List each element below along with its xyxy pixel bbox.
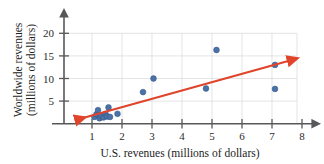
- y-tick-label: 20: [43, 27, 55, 39]
- data-point: [115, 111, 121, 117]
- x-tick-label: 3: [149, 130, 155, 142]
- x-axis-title: U.S. revenues (millions of dollars): [100, 147, 259, 160]
- data-point: [272, 86, 278, 92]
- y-tick-labels: 20 15 10 5: [43, 27, 55, 107]
- y-axis-title-line2: (millions of dollars): [25, 24, 38, 116]
- x-tick-label: 5: [209, 130, 215, 142]
- y-tick-label: 5: [49, 95, 55, 107]
- x-tick-label: 6: [239, 130, 245, 142]
- data-point: [95, 107, 101, 113]
- data-points: [92, 47, 278, 121]
- x-tick-label: 7: [269, 130, 275, 142]
- x-tick-label: 2: [119, 130, 125, 142]
- x-tick-labels: 1 2 3 4 5 6 7 8: [89, 130, 305, 142]
- y-axis-title-line1: Worldwide revenues: [12, 22, 24, 117]
- scatter-plot-figure: 20 15 10 5 1 2 3 4 5 6 7 8: [0, 0, 324, 164]
- x-tick-label: 1: [89, 130, 95, 142]
- x-tick-label: 8: [299, 130, 305, 142]
- data-point: [107, 114, 113, 120]
- data-point: [203, 86, 209, 92]
- data-point: [140, 89, 146, 95]
- data-point: [151, 76, 157, 82]
- chart-canvas: 20 15 10 5 1 2 3 4 5 6 7 8: [0, 0, 324, 164]
- y-tick-label: 10: [43, 73, 55, 85]
- data-point: [214, 47, 220, 53]
- trend-line: [78, 60, 291, 119]
- y-tick-label: 15: [43, 50, 55, 62]
- x-tick-label: 4: [179, 130, 185, 142]
